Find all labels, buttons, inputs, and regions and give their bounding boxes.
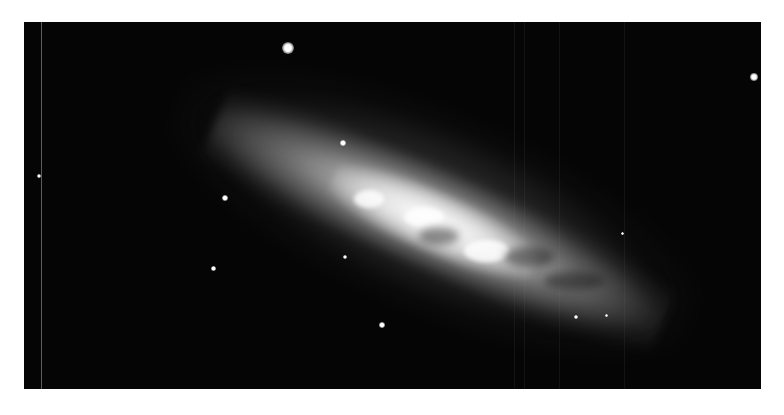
star — [379, 322, 385, 328]
galaxy-image — [24, 22, 761, 389]
star — [340, 140, 346, 146]
star — [37, 174, 41, 178]
star — [750, 73, 758, 81]
star — [282, 42, 294, 54]
star — [343, 255, 347, 259]
bright-region — [464, 240, 509, 262]
bright-region — [354, 190, 384, 208]
dust-lane — [504, 247, 554, 267]
sensor-streak — [41, 22, 42, 389]
star — [621, 232, 624, 235]
dust-lane — [544, 272, 604, 290]
dust-lane — [419, 227, 459, 245]
star — [574, 315, 578, 319]
star — [211, 266, 216, 271]
star — [605, 314, 608, 317]
star — [222, 195, 228, 201]
bright-region — [404, 207, 444, 227]
